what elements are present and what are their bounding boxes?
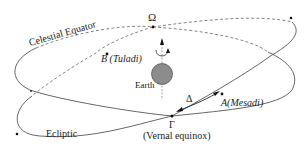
equator-end-dot bbox=[290, 17, 293, 20]
earth-label: Earth bbox=[135, 80, 155, 90]
ecliptic-label: Ecliptic bbox=[46, 128, 78, 139]
earth-group: Earth bbox=[135, 38, 173, 100]
earth-icon bbox=[152, 64, 173, 85]
vernal-equinox-dot bbox=[171, 115, 174, 118]
axis-arrow-icon bbox=[160, 38, 164, 45]
rotation-arrow-icon bbox=[166, 48, 170, 53]
star-a-label: A(Mesadi) bbox=[220, 97, 264, 109]
ecliptic-front-arc bbox=[17, 52, 295, 137]
crossing-dot bbox=[30, 90, 32, 92]
ascending-node-label: Ω bbox=[148, 11, 156, 23]
equator-label: Celestial Equator bbox=[28, 18, 98, 48]
vernal-equinox-caption: (Vernal equinox) bbox=[143, 130, 210, 142]
delta-arrow-left-icon bbox=[176, 107, 183, 112]
delta-label: Δ bbox=[186, 93, 193, 104]
celestial-diagram: Ω Celestial Equator Ecliptic B (Tuladi) … bbox=[0, 0, 306, 152]
diagram-canvas: Ω Celestial Equator Ecliptic B (Tuladi) … bbox=[0, 0, 306, 152]
star-a-dot bbox=[221, 93, 224, 96]
ecliptic-end-dot bbox=[16, 133, 19, 136]
vernal-equinox-symbol: Γ bbox=[169, 119, 175, 130]
ascending-node-dot bbox=[152, 26, 155, 29]
star-b-label: B (Tuladi) bbox=[101, 53, 143, 65]
